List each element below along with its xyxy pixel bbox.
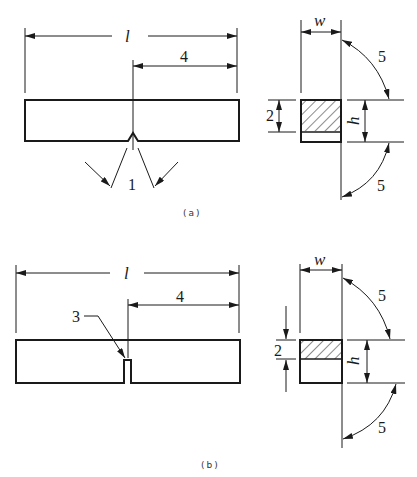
angle-label-bottom: 5: [377, 177, 385, 194]
figure-a: l 4 1 (a) w 2: [25, 11, 404, 218]
ligament-label: 2: [274, 342, 282, 359]
specimen-diagram: l 4 1 (a) w 2: [0, 0, 417, 477]
notch-label: 1: [128, 176, 136, 193]
length-label: l: [125, 27, 130, 46]
ligament-label: 2: [266, 107, 274, 124]
width-label: w: [314, 250, 326, 269]
notch-position-label: 4: [180, 48, 188, 65]
figure-b: l 4 3 (b) w 2 h 5 5: [16, 250, 405, 470]
cross-section-a: w 2 h 5 5: [266, 11, 404, 200]
height-label: h: [344, 357, 363, 366]
cross-section-b: w 2 h 5 5: [274, 250, 405, 448]
angle-label-top: 5: [378, 287, 386, 304]
angle-label-bottom: 5: [378, 419, 386, 436]
height-label: h: [344, 117, 363, 126]
caption-a: (a): [183, 208, 202, 218]
angle-label-top: 5: [378, 48, 386, 65]
notch-label: 3: [72, 308, 80, 325]
notch-position-label: 4: [176, 288, 184, 305]
length-label: l: [124, 264, 129, 283]
caption-b: (b): [201, 460, 220, 470]
width-label: w: [314, 11, 326, 30]
v-notch-specimen: [25, 100, 239, 141]
